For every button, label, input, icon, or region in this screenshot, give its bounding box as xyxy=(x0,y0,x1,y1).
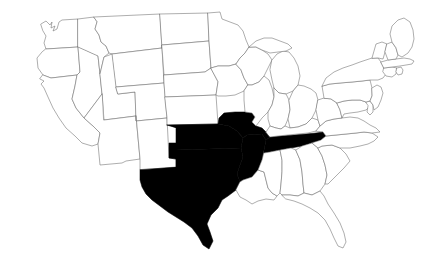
state-washington[interactable]: Washington xyxy=(41,19,78,49)
state-oregon[interactable]: Oregon xyxy=(37,47,80,78)
state-kansas[interactable]: Kansas xyxy=(165,95,218,125)
us-states-map: Washington Oregon California Nevada Idah… xyxy=(0,0,423,270)
state-south-dakota[interactable]: South Dakota xyxy=(162,41,211,75)
state-vermont[interactable]: Vermont xyxy=(372,42,387,59)
state-michigan-lower[interactable]: Michigan xyxy=(270,51,300,94)
state-wyoming[interactable]: Wyoming xyxy=(112,48,164,87)
state-massachusetts[interactable]: Massachusetts xyxy=(381,58,414,68)
state-new-york[interactable]: New York xyxy=(322,58,386,86)
state-rhode-island[interactable]: Rhode Island xyxy=(396,67,403,75)
state-maryland[interactable]: Maryland xyxy=(337,100,370,118)
us-map-container: Washington Oregon California Nevada Idah… xyxy=(0,0,423,270)
state-florida[interactable]: Florida xyxy=(282,191,346,248)
